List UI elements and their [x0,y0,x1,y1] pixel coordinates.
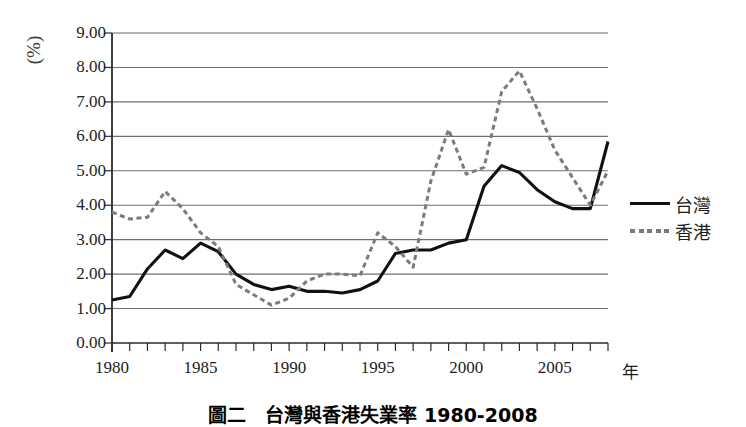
y-tick-label: 6.00 [44,126,106,146]
y-tick-label: 7.00 [44,92,106,112]
solid-line-swatch [628,197,672,211]
y-tick-label: 0.00 [44,333,106,353]
y-tick-label: 9.00 [44,23,106,43]
x-tick-label: 1985 [184,358,218,378]
dashed-line-swatch [628,224,672,238]
legend-label-hongkong: 香港 [672,218,711,244]
x-tick-label: 1995 [361,358,395,378]
y-tick-label: 1.00 [44,299,106,319]
chart-legend: 台灣 香港 [628,190,746,244]
x-tick-label: 1980 [95,358,129,378]
y-tick-label: 2.00 [44,264,106,284]
y-tick-label: 3.00 [44,230,106,250]
y-tick-label: 4.00 [44,195,106,215]
x-tick-label: 1990 [272,358,306,378]
x-tick-label: 2000 [449,358,483,378]
legend-item-hongkong: 香港 [628,217,746,244]
figure-caption: 圖二 台灣與香港失業率 1980-2008 [0,400,746,427]
y-tick-label: 5.00 [44,161,106,181]
y-tick-label: 8.00 [44,57,106,77]
legend-item-taiwan: 台灣 [628,190,746,217]
x-axis-label: 年 [622,358,639,383]
x-tick-label: 2005 [538,358,572,378]
legend-label-taiwan: 台灣 [672,191,711,217]
series-line-taiwan [112,142,608,300]
